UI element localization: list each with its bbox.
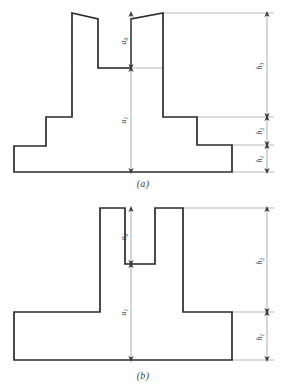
panel-b-extension-lines [125, 208, 274, 360]
dim-label-h1-panel-b: h1 [256, 334, 264, 341]
dim-label-h2-panel-b: h2 [256, 258, 264, 265]
panel-a-caption: (a) [0, 178, 286, 189]
dim-label-h3-panel-a: h3 [256, 63, 264, 70]
panel-a: a0 a1 h3 h2 h1 [0, 0, 286, 196]
panel-b-caption: (b) [0, 370, 286, 381]
dim-label-a0-panel-a: a0 [120, 38, 128, 45]
dim-label-h2-panel-a: h2 [256, 128, 264, 135]
technical-figure: a0 a1 h3 h2 h1 (a) [0, 0, 286, 391]
dim-label-h1-panel-a: h1 [256, 156, 264, 163]
panel-b-profile-outline [14, 208, 232, 360]
dim-label-a1-panel-b: a1 [120, 309, 128, 316]
dim-label-a1-panel-a: a1 [120, 117, 128, 124]
dim-label-a0-panel-b: a0 [120, 234, 128, 241]
panel-b: a0 a1 h2 h1 [0, 195, 286, 391]
panel-a-drawing [0, 0, 286, 196]
panel-b-drawing [0, 195, 286, 391]
